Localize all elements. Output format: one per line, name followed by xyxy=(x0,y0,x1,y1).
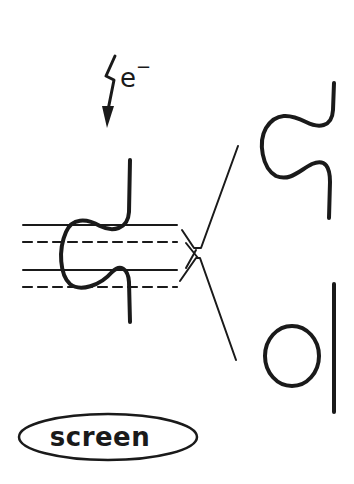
lightning-arrow-icon xyxy=(102,56,115,128)
electron-symbol: e xyxy=(120,63,136,93)
screen-label: screen xyxy=(0,420,200,454)
arrowhead-icon xyxy=(102,106,114,128)
projection-rays xyxy=(180,146,238,360)
electron-charge: − xyxy=(136,56,151,77)
electron-label: e− xyxy=(120,56,151,93)
ring-shape xyxy=(265,326,319,386)
projection-s-curve xyxy=(262,83,334,218)
projection-ring-rod xyxy=(265,284,334,412)
support-lines xyxy=(23,225,177,287)
diagram-canvas xyxy=(0,0,354,484)
